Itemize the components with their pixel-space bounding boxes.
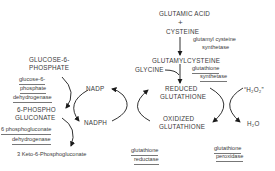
enzyme-glutathione-peroxidase-2: peroxidase bbox=[216, 154, 243, 162]
node-cysteine: CYSTEINE bbox=[166, 29, 199, 35]
arrow-nadp-to-nadph bbox=[74, 90, 88, 121]
node-glutamylcysteine: GLUTAMYLCYSTEINE bbox=[152, 58, 220, 64]
plus-sign: + bbox=[178, 19, 183, 27]
enzyme-glutathione-reductase-2: reductase bbox=[134, 157, 159, 165]
enzyme-g6pd-3: dehydrogenase bbox=[13, 95, 52, 103]
node-h2o: H₂O bbox=[247, 121, 260, 127]
arrow-reduced-to-oxidized bbox=[210, 88, 224, 122]
node-nadph: NADPH bbox=[84, 120, 107, 126]
arrow-glycine-join bbox=[165, 70, 179, 75]
enzyme-glutathione-reductase-1: glutathione bbox=[131, 148, 158, 156]
arrow-nadph-to-nadp bbox=[112, 89, 127, 121]
node-nadp: NADP bbox=[86, 86, 104, 92]
node-6-phosphogluconate-1: 6-PHOSPHO bbox=[17, 107, 56, 113]
arrow-oxidized-to-reduced bbox=[137, 90, 150, 121]
node-glycine: GLYCINE bbox=[135, 67, 164, 73]
node-reduced-glutathione-1: REDUCED bbox=[165, 86, 198, 92]
enzyme-glutathione-synthetase-2: synthetase bbox=[200, 74, 227, 82]
node-glucose-6-phosphate-1: GLUCOSE-6- bbox=[29, 57, 70, 63]
enzyme-glutamyl-cysteine-synthetase-1: glutamyl cysteine bbox=[193, 37, 236, 43]
arrow-g6p-to-6pg bbox=[62, 77, 71, 108]
node-6-phosphogluconate-2: GLUCONATE bbox=[15, 115, 56, 121]
node-reduced-glutathione-2: GLUTATHIONE bbox=[160, 94, 206, 100]
node-glutamic-acid: GLUTAMIC ACID bbox=[159, 11, 210, 17]
enzyme-6pgd-1: 6 phosphogluconate bbox=[1, 127, 51, 135]
enzyme-6pgd-2: dehydrogenase bbox=[12, 137, 51, 145]
node-h2o2: “H₂O₂” bbox=[244, 87, 264, 93]
node-oxidized-glutathione-1: OXIDIZED bbox=[163, 116, 194, 122]
enzyme-g6pd-2: phosphate bbox=[20, 86, 46, 94]
node-oxidized-glutathione-2: GLUTATHIONE bbox=[159, 124, 205, 130]
arrow-h2o2-to-h2o bbox=[230, 88, 243, 122]
node-3-keto-6-phosphogluconate: 3 Keto-6-Phosphogluconate bbox=[17, 152, 86, 158]
arrow-6pg-to-keto bbox=[62, 118, 73, 146]
enzyme-glutamyl-cysteine-synthetase-2: synthetase bbox=[202, 45, 229, 51]
enzyme-g6pd-1: glucose-6- bbox=[19, 77, 45, 85]
node-glucose-6-phosphate-2: PHOSPHATE bbox=[29, 65, 69, 71]
